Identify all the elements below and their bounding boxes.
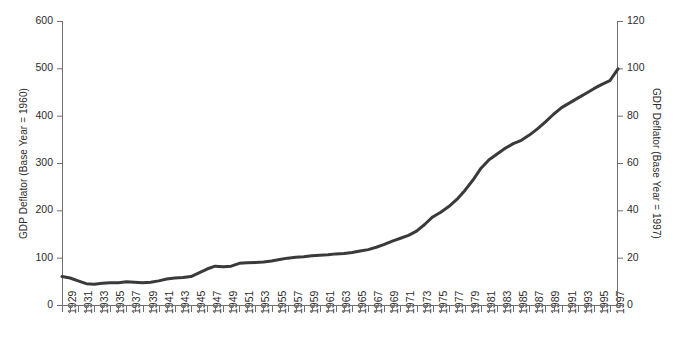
tick-marks [57,22,623,313]
axis-lines [62,21,618,306]
gdp-deflator-series-line [62,69,618,284]
gdp-deflator-line-chart: GDP Deflator (Base Year = 1960) GDP Defl… [0,0,679,352]
plot-area [0,0,679,352]
